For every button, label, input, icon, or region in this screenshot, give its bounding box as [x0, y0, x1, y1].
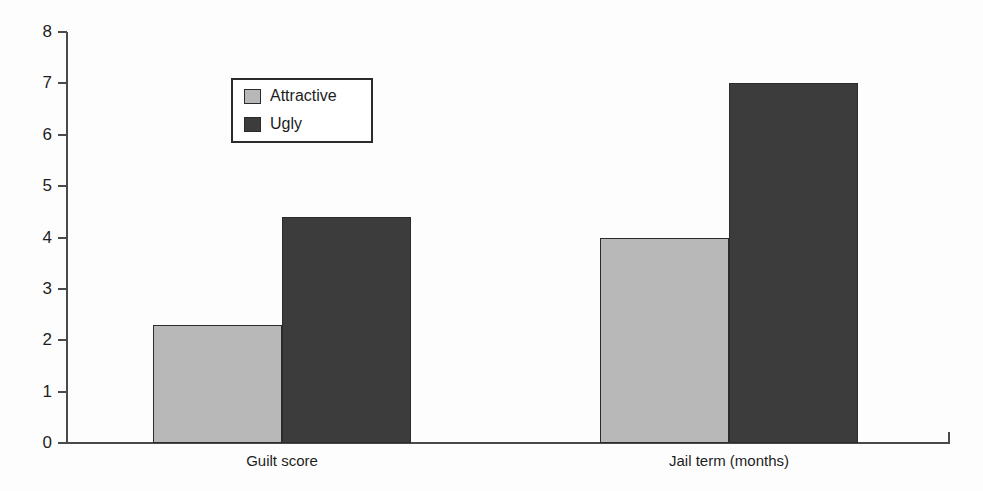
- bar-ugly-1: [729, 83, 858, 443]
- legend-item-attractive: Attractive: [244, 88, 337, 104]
- bar-attractive-1: [600, 238, 729, 444]
- bar-chart: 012345678 Guilt scoreJail term (months) …: [0, 0, 983, 491]
- x-axis-label: Jail term (months): [600, 452, 858, 469]
- bar-ugly-0: [282, 217, 411, 443]
- legend-swatch-ugly: [244, 117, 261, 132]
- bar-attractive-0: [153, 325, 282, 443]
- legend: Attractive Ugly: [231, 78, 373, 143]
- plot-area: [0, 0, 983, 491]
- legend-label-attractive: Attractive: [270, 88, 337, 104]
- legend-item-ugly: Ugly: [244, 116, 302, 132]
- legend-label-ugly: Ugly: [270, 116, 302, 132]
- legend-swatch-attractive: [244, 89, 261, 104]
- x-axis-label: Guilt score: [153, 452, 411, 469]
